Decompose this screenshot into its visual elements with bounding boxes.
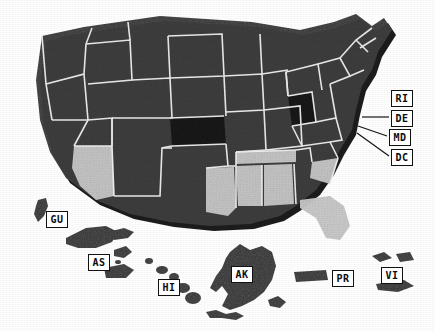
- label-vi[interactable]: VI: [381, 267, 403, 284]
- leader-line-district-of-columbia: [357, 133, 389, 156]
- callout-leader-lines: [357, 117, 389, 156]
- us-map: RI DE MD DC GU AS HI AK PR VI: [0, 0, 435, 331]
- label-gu[interactable]: GU: [46, 211, 68, 228]
- state-florida: [300, 196, 350, 240]
- us-map-svg: [0, 0, 435, 331]
- label-hi[interactable]: HI: [158, 279, 180, 296]
- label-ak[interactable]: AK: [231, 266, 253, 283]
- callout-de[interactable]: DE: [391, 110, 413, 127]
- state-alabama: [264, 164, 294, 206]
- territory-puerto-rico: [294, 270, 328, 282]
- state-arizona: [72, 146, 114, 200]
- state-mississippi: [236, 165, 262, 206]
- callout-ri[interactable]: RI: [391, 90, 413, 107]
- leader-line-maryland: [358, 126, 387, 136]
- callout-md[interactable]: MD: [389, 129, 411, 146]
- state-ohio: [288, 92, 316, 126]
- state-kansas: [170, 116, 226, 146]
- callout-dc[interactable]: DC: [391, 149, 413, 166]
- label-pr[interactable]: PR: [332, 270, 354, 287]
- label-as[interactable]: AS: [88, 254, 110, 271]
- state-louisiana: [206, 167, 236, 216]
